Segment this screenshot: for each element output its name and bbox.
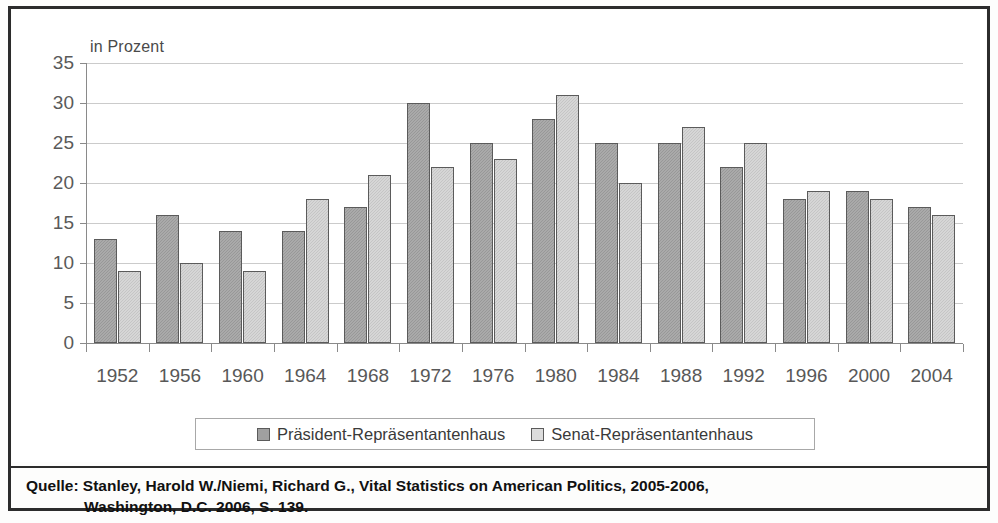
x-axis-tick	[775, 344, 776, 352]
bar-group	[399, 63, 462, 343]
x-axis-tick	[587, 344, 588, 352]
legend-entry-president[interactable]: Präsident-Repräsentantenhaus	[257, 425, 505, 444]
bar-group	[900, 63, 963, 343]
x-axis-tick	[462, 344, 463, 352]
x-axis-tick	[838, 344, 839, 352]
bar	[306, 199, 329, 343]
bar	[658, 143, 681, 343]
bar	[219, 231, 242, 343]
bar	[846, 191, 869, 343]
bar-group	[337, 63, 400, 343]
bar	[532, 119, 555, 343]
bar	[682, 127, 705, 343]
legend-swatch-icon-president	[257, 428, 270, 441]
x-axis-tick-label: 1976	[472, 365, 514, 387]
bar-group	[838, 63, 901, 343]
bar	[470, 143, 493, 343]
bar	[282, 231, 305, 343]
bar	[431, 167, 454, 343]
x-axis-tick-label: 1964	[284, 365, 326, 387]
bar-group	[650, 63, 713, 343]
y-axis-tick-label: 5	[63, 292, 74, 314]
bar	[619, 183, 642, 343]
y-axis-tick-label: 20	[53, 172, 74, 194]
plot-area: 05101520253035 1952195619601964196819721…	[86, 63, 963, 343]
x-axis-tick	[149, 344, 150, 352]
bar	[344, 207, 367, 343]
bar-group	[462, 63, 525, 343]
frame-border-top	[8, 6, 990, 9]
y-axis-tick-label: 30	[53, 92, 74, 114]
x-axis-tick-label: 1972	[409, 365, 451, 387]
bar	[556, 95, 579, 343]
x-axis-tick	[337, 344, 338, 352]
chart-region: in Prozent 05101520253035 19521956196019…	[12, 10, 986, 462]
source-label: Quelle:	[26, 477, 79, 494]
x-axis-tick	[274, 344, 275, 352]
frame-border-right	[987, 6, 990, 511]
bar	[156, 215, 179, 343]
y-axis-tick-label: 25	[53, 132, 74, 154]
bar	[908, 207, 931, 343]
source-note: Quelle: Stanley, Harold W./Niemi, Richar…	[26, 476, 976, 518]
legend-label-senate: Senat-Repräsentantenhaus	[551, 425, 753, 444]
bar-group	[775, 63, 838, 343]
bar	[744, 143, 767, 343]
bar	[807, 191, 830, 343]
frame-border-left	[8, 6, 11, 511]
x-axis-tick-label: 1968	[347, 365, 389, 387]
x-axis-tick-label: 1988	[660, 365, 702, 387]
y-axis-unit-label: in Prozent	[90, 38, 164, 56]
source-line-1: Stanley, Harold W./Niemi, Richard G., Vi…	[83, 477, 709, 494]
legend-label-president: Präsident-Repräsentantenhaus	[277, 425, 505, 444]
x-axis-tick	[211, 344, 212, 352]
legend-entry-senate[interactable]: Senat-Repräsentantenhaus	[531, 425, 753, 444]
x-axis-tick	[525, 344, 526, 352]
bar	[720, 167, 743, 343]
bar	[368, 175, 391, 343]
x-axis-tick-label: 1984	[597, 365, 639, 387]
bar-group	[525, 63, 588, 343]
x-axis-tick-label: 1980	[535, 365, 577, 387]
x-axis-tick	[712, 344, 713, 352]
bar-group	[712, 63, 775, 343]
bar	[595, 143, 618, 343]
bar	[494, 159, 517, 343]
bar-group	[149, 63, 212, 343]
source-line-2: Washington, D.C. 2006, S. 139.	[84, 497, 976, 518]
x-axis-tick	[963, 344, 964, 352]
x-axis-tick-label: 1952	[96, 365, 138, 387]
y-axis-tick-label: 10	[53, 252, 74, 274]
x-axis-tick-label: 1960	[221, 365, 263, 387]
bar	[243, 271, 266, 343]
bar-group	[274, 63, 337, 343]
bar	[118, 271, 141, 343]
frame-divider	[8, 466, 990, 468]
x-axis-tick-label: 2000	[848, 365, 890, 387]
x-axis-tick	[86, 344, 87, 352]
bar	[932, 215, 955, 343]
x-axis-tick-label: 1996	[785, 365, 827, 387]
x-axis-tick	[399, 344, 400, 352]
bar	[407, 103, 430, 343]
bar-group	[211, 63, 274, 343]
x-axis-tick-label: 1956	[159, 365, 201, 387]
bar-group	[86, 63, 149, 343]
bar	[783, 199, 806, 343]
x-axis-tick	[900, 344, 901, 352]
y-axis-tick-label: 15	[53, 212, 74, 234]
x-axis-tick-label: 2004	[911, 365, 953, 387]
figure-page: in Prozent 05101520253035 19521956196019…	[0, 0, 998, 523]
chart-legend: Präsident-Repräsentantenhaus Senat-Reprä…	[195, 418, 815, 450]
legend-swatch-icon-senate	[531, 428, 544, 441]
bar	[94, 239, 117, 343]
bar	[180, 263, 203, 343]
x-axis-tick-label: 1992	[723, 365, 765, 387]
bar	[870, 199, 893, 343]
y-axis-tick-label: 35	[53, 52, 74, 74]
x-axis-tick	[650, 344, 651, 352]
bar-group	[587, 63, 650, 343]
y-axis-tick-label: 0	[63, 332, 74, 354]
